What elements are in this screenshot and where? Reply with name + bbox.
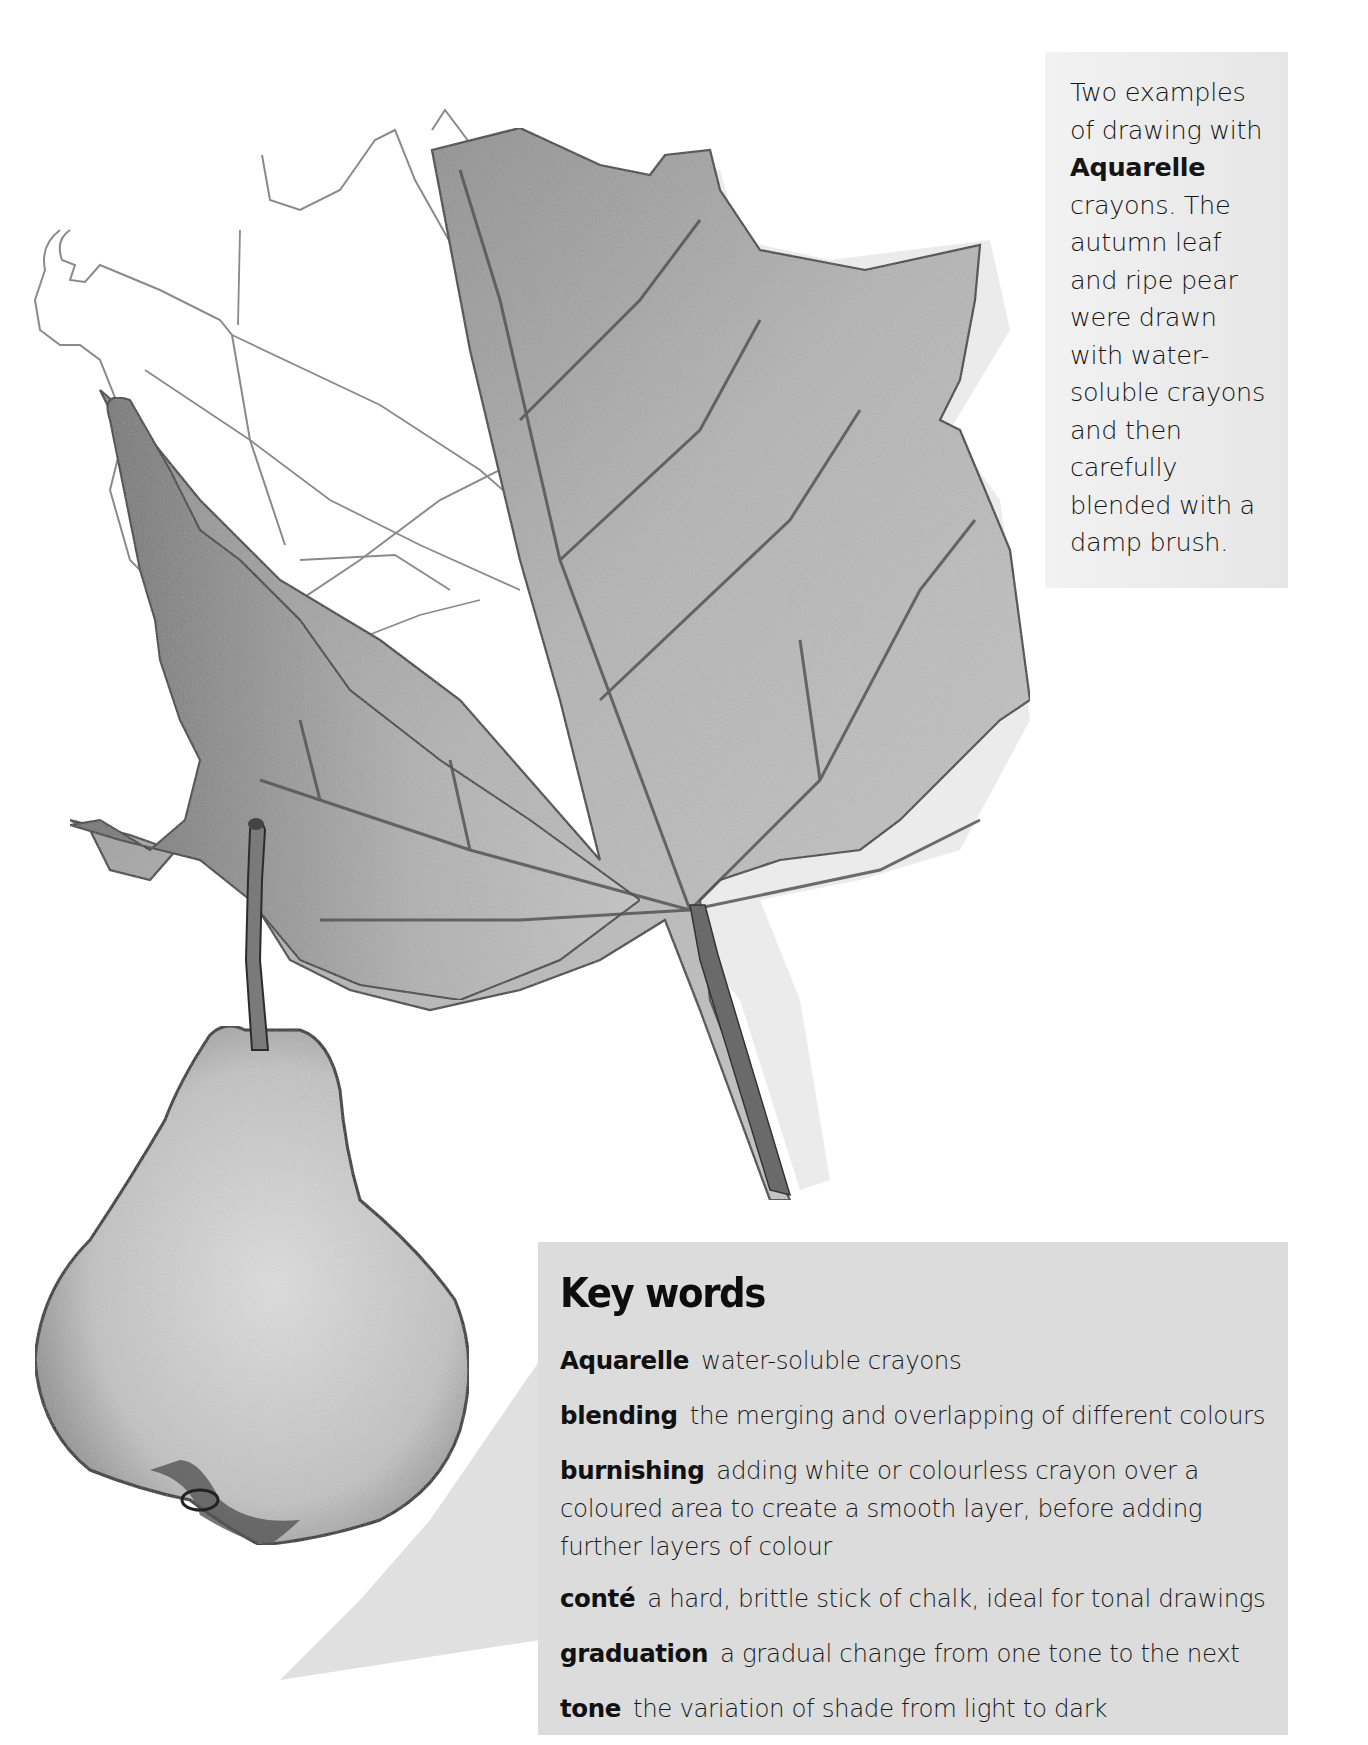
autumn-leaf xyxy=(35,110,1030,1200)
key-words-box: Key words Aquarellewater-soluble crayons… xyxy=(538,1242,1288,1735)
caption-line: blended with a xyxy=(1070,487,1278,525)
key-word-term: blending xyxy=(560,1401,678,1430)
key-word-definition: a hard, brittle stick of chalk, ideal fo… xyxy=(647,1584,1265,1613)
caption-line: of drawing with xyxy=(1070,112,1278,150)
key-word-definition: a gradual change from one tone to the ne… xyxy=(720,1639,1239,1668)
key-word-term: burnishing xyxy=(560,1456,704,1485)
caption-term-aquarelle: Aquarelle xyxy=(1070,152,1205,182)
caption-line: and then xyxy=(1070,412,1278,450)
caption-line: carefully xyxy=(1070,449,1278,487)
caption-line: with water- xyxy=(1070,337,1278,375)
caption-text: Two examples of drawing with Aquarelle c… xyxy=(1070,74,1278,562)
key-word-definition: the merging and overlapping of different… xyxy=(690,1401,1265,1430)
key-word-term: conté xyxy=(560,1584,635,1613)
key-word-entry: tonethe variation of shade from light to… xyxy=(560,1690,1288,1728)
key-word-entry: contéa hard, brittle stick of chalk, ide… xyxy=(560,1580,1288,1618)
key-word-entry: graduationa gradual change from one tone… xyxy=(560,1635,1288,1673)
caption-line: autumn leaf xyxy=(1070,224,1278,262)
key-words-title: Key words xyxy=(560,1270,1237,1316)
caption-line: and ripe pear xyxy=(1070,262,1278,300)
caption-line: were drawn xyxy=(1070,299,1278,337)
key-word-term: graduation xyxy=(560,1639,708,1668)
caption-line: damp brush. xyxy=(1070,524,1278,562)
caption-line: Two examples xyxy=(1070,74,1278,112)
caption-box: Two examples of drawing with Aquarelle c… xyxy=(1045,52,1288,588)
caption-line: crayons. The xyxy=(1070,187,1278,225)
key-word-definition: water-soluble crayons xyxy=(701,1346,961,1375)
key-word-entry: Aquarellewater-soluble crayons xyxy=(560,1342,1288,1380)
key-word-entry: blendingthe merging and overlapping of d… xyxy=(560,1397,1288,1435)
key-word-definition: the variation of shade from light to dar… xyxy=(633,1694,1107,1723)
key-word-entry: burnishingadding white or colourless cra… xyxy=(560,1452,1210,1566)
key-word-term: tone xyxy=(560,1694,621,1723)
key-word-term: Aquarelle xyxy=(560,1346,689,1375)
caption-line-bold: Aquarelle xyxy=(1070,149,1278,187)
caption-line: soluble crayons xyxy=(1070,374,1278,412)
